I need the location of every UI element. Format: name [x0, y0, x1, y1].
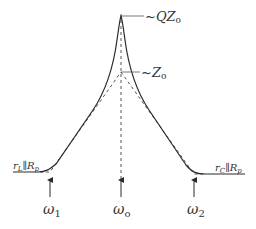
- omega0-label: ωo: [113, 201, 130, 219]
- right-asymptote-label: rC∥Rp: [215, 162, 242, 175]
- peak-label: ~QZo: [145, 9, 181, 25]
- impedance-diagram: ~QZo ~Zo rL∥Rp rC∥Rp ω1 ωo ω2: [0, 0, 256, 229]
- omega2-label: ω2: [187, 201, 205, 219]
- right-asymptote-dashed: [121, 72, 205, 174]
- mid-label: ~Zo: [141, 65, 166, 81]
- impedance-curve: [13, 16, 245, 174]
- omega1-label: ω1: [43, 201, 61, 219]
- left-asymptote-label: rL∥Rp: [13, 160, 40, 173]
- left-asymptote-dashed: [40, 72, 121, 172]
